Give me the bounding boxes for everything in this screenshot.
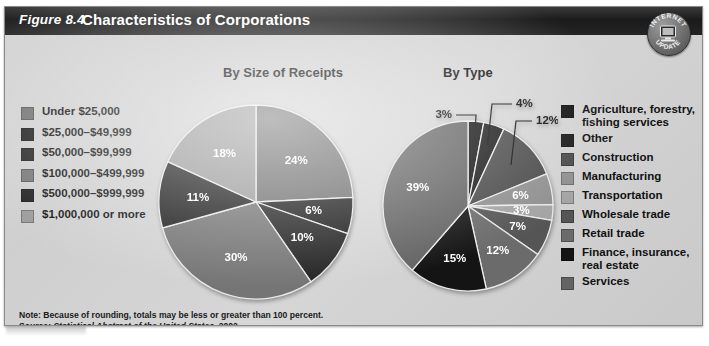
pie-slice-label: 15%: [443, 252, 466, 264]
pie-slice-label: 24%: [285, 154, 308, 166]
pie-slice-label: 12%: [486, 244, 509, 256]
chart-title-by-size: By Size of Receipts: [223, 65, 343, 80]
computer-icon: [661, 26, 676, 42]
legend-item[interactable]: $500,000–$999,999: [21, 187, 146, 202]
legend-swatch: [561, 153, 574, 166]
legend-swatch: [561, 191, 574, 204]
legend-label: Under $25,000: [42, 105, 120, 118]
legend-label: $50,000–$99,999: [42, 146, 132, 159]
badge-graphic: INTERNET UPDATE: [647, 12, 689, 54]
legend-label: Finance, insurance, real estate: [582, 246, 689, 271]
legend-swatch: [21, 128, 34, 141]
figure-notes: Note: Because of rounding, totals may be…: [19, 310, 323, 326]
page-edge-shadow: [6, 326, 86, 336]
pie-slice-label: 7%: [509, 220, 526, 232]
legend-item[interactable]: Services: [561, 275, 695, 290]
pie-slice-label: 11%: [187, 191, 209, 203]
legend-label: Manufacturing: [582, 170, 661, 183]
legend-swatch: [21, 148, 34, 161]
legend-label: Agriculture, forestry, fishing services: [582, 103, 695, 128]
legend-item[interactable]: $100,000–$499,999: [21, 167, 146, 182]
legend-swatch: [21, 169, 34, 182]
pie-slice-label: 39%: [406, 181, 429, 193]
legend-item[interactable]: Finance, insurance, real estate: [561, 246, 695, 271]
legend-swatch: [561, 134, 574, 147]
legend-swatch: [561, 229, 574, 242]
legend-label: $25,000–$49,999: [42, 126, 132, 139]
pie-chart-by-type: 6%3%7%12%15%39%3%4%12%: [380, 99, 558, 295]
legend-label: Services: [582, 275, 629, 288]
legend-item[interactable]: Transportation: [561, 189, 695, 204]
legend-item[interactable]: $50,000–$99,999: [21, 146, 146, 161]
figure-number: Figure 8.4: [19, 12, 85, 27]
legend-swatch: [21, 210, 34, 223]
pie-slice-label: 6%: [512, 189, 529, 201]
legend-item[interactable]: Agriculture, forestry, fishing services: [561, 103, 695, 128]
pie-slice-label: 10%: [291, 231, 314, 243]
internet-update-badge[interactable]: INTERNET UPDATE: [646, 11, 694, 55]
legend-label: Wholesale trade: [582, 208, 670, 221]
legend-item[interactable]: Wholesale trade: [561, 208, 695, 223]
pie-slice-label: 3%: [435, 108, 452, 120]
legend-swatch: [21, 107, 34, 120]
legend-swatch: [561, 277, 574, 290]
legend-swatch: [561, 248, 574, 261]
legend-by-type: Agriculture, forestry, fishing services …: [561, 103, 695, 294]
legend-by-size: Under $25,000 $25,000–$49,999 $50,000–$9…: [21, 105, 146, 228]
pie-slice-label: 30%: [225, 251, 248, 263]
pie-slice-label: 18%: [213, 147, 236, 159]
legend-item[interactable]: Other: [561, 132, 695, 147]
legend-label: Retail trade: [582, 227, 645, 240]
legend-item[interactable]: Manufacturing: [561, 170, 695, 185]
source-year: , 2002: [214, 321, 238, 327]
legend-swatch: [561, 210, 574, 223]
legend-label: $100,000–$499,999: [42, 167, 144, 180]
pie-slice-label: 6%: [305, 204, 322, 216]
legend-item[interactable]: $25,000–$49,999: [21, 126, 146, 141]
figure-header: Figure 8.4 Characteristics of Corporatio…: [5, 7, 702, 35]
chart-title-by-type: By Type: [443, 65, 493, 80]
pie-slice-label: 4%: [516, 99, 533, 109]
legend-item[interactable]: Construction: [561, 151, 695, 166]
legend-swatch: [561, 105, 574, 118]
pie-slice-label: 3%: [513, 204, 530, 216]
figure-title: Characteristics of Corporations: [82, 11, 310, 28]
legend-label: Transportation: [582, 189, 663, 202]
legend-label: Construction: [582, 151, 654, 164]
figure-panel: Figure 8.4 Characteristics of Corporatio…: [4, 6, 703, 326]
legend-label: $500,000–$999,999: [42, 187, 144, 200]
pie-chart-by-size: 24%6%10%30%11%18%: [157, 100, 357, 304]
legend-item[interactable]: Retail trade: [561, 227, 695, 242]
rounding-note: Note: Because of rounding, totals may be…: [19, 310, 323, 321]
legend-label: $1,000,000 or more: [42, 208, 146, 221]
legend-item[interactable]: $1,000,000 or more: [21, 208, 146, 223]
pie-slice-label: 12%: [536, 114, 558, 126]
legend-swatch: [561, 172, 574, 185]
legend-label: Other: [582, 132, 613, 145]
legend-item[interactable]: Under $25,000: [21, 105, 146, 120]
legend-swatch: [21, 189, 34, 202]
